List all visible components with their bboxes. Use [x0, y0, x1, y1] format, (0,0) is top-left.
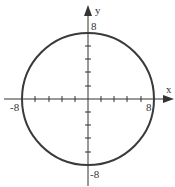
chart-container: y x 8 -8 -8 8	[0, 0, 175, 187]
y-axis-label: y	[95, 4, 101, 16]
y-axis-arrow-icon	[84, 5, 92, 16]
x-axis-arrow-icon	[163, 95, 174, 103]
y-pos-label: 8	[91, 20, 97, 32]
x-axis-label: x	[166, 83, 172, 95]
x-neg-label: -8	[10, 101, 20, 113]
circle-plot: y x 8 -8 -8 8	[0, 0, 175, 187]
y-neg-label: -8	[90, 168, 100, 180]
x-pos-label: 8	[146, 101, 152, 113]
